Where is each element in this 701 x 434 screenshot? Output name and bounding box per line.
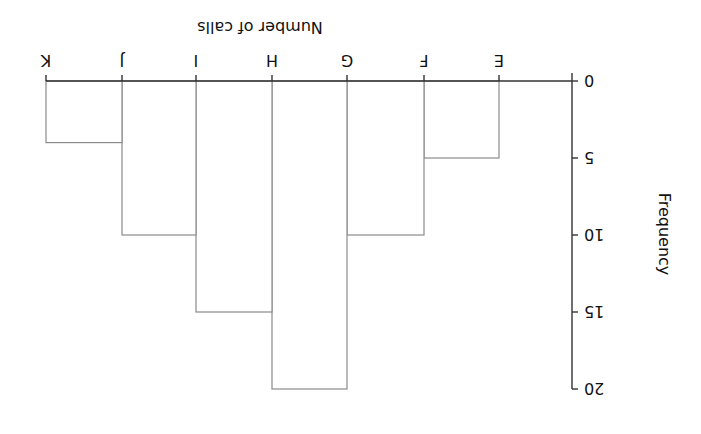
histogram-bar: [272, 81, 347, 389]
histogram-figure: 05101520 EFGHIJK Number of calls Frequen…: [0, 0, 701, 434]
x-axis: EFGHIJK: [40, 51, 572, 81]
histogram-bar: [347, 81, 424, 235]
x-tick-label: H: [266, 51, 278, 70]
y-axis: 05101520: [572, 71, 604, 398]
histogram-bar: [46, 81, 122, 143]
histogram-chart: 05101520 EFGHIJK Number of calls Frequen…: [0, 0, 701, 434]
x-axis-title: Number of calls: [197, 18, 323, 37]
bars-group: [46, 81, 499, 389]
x-tick-label: E: [494, 51, 504, 70]
y-tick-label: 20: [584, 379, 604, 398]
x-tick-label: I: [194, 51, 199, 70]
y-tick-label: 5: [584, 148, 594, 167]
x-tick-label: K: [40, 51, 51, 70]
x-tick-label: F: [419, 51, 428, 70]
y-tick-label: 15: [584, 302, 604, 321]
histogram-bar: [122, 81, 196, 235]
y-tick-label: 10: [584, 225, 604, 244]
x-tick-label: J: [120, 51, 126, 70]
x-tick-label: G: [341, 51, 353, 70]
histogram-bar: [424, 81, 499, 158]
histogram-bar: [196, 81, 272, 312]
y-axis-title: Frequency: [655, 193, 674, 276]
y-tick-label: 0: [584, 71, 594, 90]
